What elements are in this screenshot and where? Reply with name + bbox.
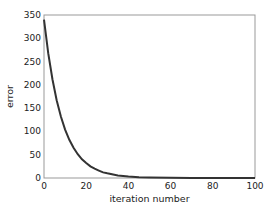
x-tick-label: 60 (165, 181, 177, 191)
x-axis-ticks: 020406080100 (41, 181, 264, 191)
y-tick-label: 300 (24, 33, 41, 43)
x-tick-label: 0 (41, 181, 47, 191)
error-vs-iteration-chart: 050100150200250300350 020406080100 itera… (0, 0, 275, 210)
y-tick-label: 100 (24, 126, 41, 136)
x-axis-label: iteration number (109, 193, 189, 204)
y-tick-label: 250 (24, 57, 41, 67)
x-tick-label: 20 (80, 181, 92, 191)
x-tick-label: 40 (123, 181, 135, 191)
y-axis-label: error (4, 85, 15, 108)
x-tick-label: 80 (207, 181, 219, 191)
x-tick-label: 100 (246, 181, 263, 191)
y-tick-label: 50 (30, 150, 42, 160)
y-axis-ticks: 050100150200250300350 (24, 10, 41, 183)
y-tick-label: 200 (24, 80, 41, 90)
y-tick-label: 350 (24, 10, 41, 20)
plot-area (44, 15, 255, 178)
y-tick-label: 150 (24, 103, 41, 113)
